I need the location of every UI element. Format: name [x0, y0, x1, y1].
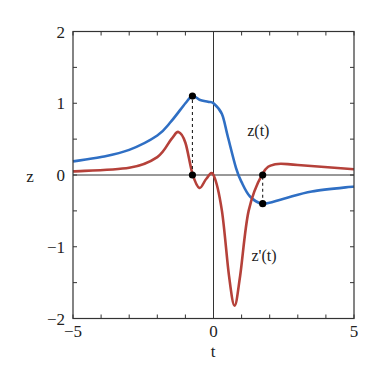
x-tick-label: 5 [350, 322, 359, 341]
series-label-0: z(t) [247, 122, 269, 140]
x-axis-label: t [211, 342, 216, 361]
series-label-1: z'(t) [251, 247, 276, 265]
y-tick-label: −2 [47, 310, 65, 329]
series-labels: z(t)z'(t) [247, 122, 276, 266]
point-marker [189, 171, 196, 178]
dashed-connectors [192, 96, 262, 204]
y-tick-label: 1 [57, 94, 66, 113]
point-marker [189, 92, 196, 99]
point-marker [259, 171, 266, 178]
chart: −2−1012−505 z(t)z'(t) t z [0, 0, 375, 383]
tick-labels: −2−1012−505 [47, 23, 358, 341]
x-tick-label: −5 [64, 322, 82, 341]
y-axis-label: z [26, 167, 34, 186]
y-tick-label: −1 [47, 238, 65, 257]
x-tick-label: 0 [209, 322, 218, 341]
y-tick-label: 0 [57, 166, 66, 185]
y-tick-label: 2 [57, 23, 66, 42]
point-marker [259, 200, 266, 207]
